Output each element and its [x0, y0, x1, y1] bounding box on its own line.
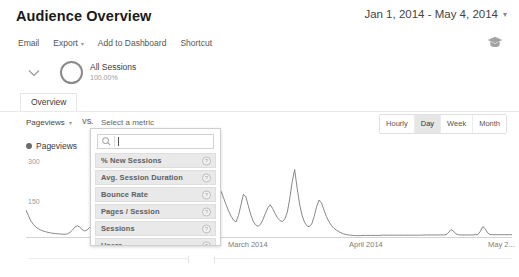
info-icon[interactable]: ?	[202, 207, 211, 216]
granularity-hourly-button[interactable]: Hourly	[380, 115, 415, 133]
report-toolbar: Email Export ▾ Add to Dashboard Shortcut	[18, 38, 212, 48]
graduation-cap-icon	[487, 36, 503, 48]
info-icon[interactable]: ?	[202, 173, 211, 182]
segment-bar: All Sessions 100.00%	[0, 56, 519, 90]
granularity-day-button[interactable]: Day	[415, 115, 441, 133]
info-icon[interactable]: ?	[202, 241, 211, 246]
legend-dot-icon	[26, 143, 32, 149]
metric-option-list: % New Sessions ? Avg. Session Duration ?…	[91, 153, 220, 246]
chevron-down-icon: ▾	[69, 119, 72, 126]
metric-dropdown-panel[interactable]: % New Sessions ? Avg. Session Duration ?…	[90, 128, 221, 246]
metric-option-label: Pages / Session	[101, 207, 160, 216]
metric-option-label: Users	[101, 241, 122, 246]
metric-option-bounce-rate[interactable]: Bounce Rate ?	[95, 187, 216, 202]
segment-info[interactable]: All Sessions 100.00%	[90, 62, 136, 82]
x-axis-tick-april: April 2014	[349, 240, 383, 249]
segment-percent: 100.00%	[90, 74, 136, 83]
donut-ring-icon	[60, 61, 83, 84]
x-axis-tick-march: March 2014	[228, 240, 268, 249]
separator-tick-left	[188, 256, 189, 263]
separator-tick-right	[214, 256, 215, 263]
metric-option-label: Avg. Session Duration	[101, 173, 183, 182]
date-range-label: Jan 1, 2014 - May 4, 2014	[364, 8, 498, 20]
x-axis: March 2014 April 2014 May 2...	[0, 240, 519, 254]
primary-metric-selector[interactable]: Pageviews ▾	[26, 118, 72, 127]
page-title: Audience Overview	[16, 8, 151, 24]
pageviews-chart: Pageviews 300 150 March 2014 April 2014 …	[0, 138, 519, 254]
granularity-hourly-label: Hourly	[386, 119, 408, 128]
analytics-audience-overview-page: Audience Overview Jan 1, 2014 - May 4, 2…	[0, 0, 519, 277]
info-icon[interactable]: ?	[202, 224, 211, 233]
metric-option-pages-per-session[interactable]: Pages / Session ?	[95, 204, 216, 219]
tab-overview-label: Overview	[31, 97, 66, 107]
x-axis-tick-may: May 2...	[488, 240, 515, 249]
add-to-dashboard-label: Add to Dashboard	[98, 38, 167, 48]
chevron-down-icon[interactable]	[28, 69, 40, 77]
metric-option-label: Bounce Rate	[101, 190, 148, 199]
tab-overview[interactable]: Overview	[20, 93, 77, 111]
separator-line-left	[28, 258, 188, 259]
metric-option-avg-session-duration[interactable]: Avg. Session Duration ?	[95, 170, 216, 185]
date-range-selector[interactable]: Jan 1, 2014 - May 4, 2014 ▾	[364, 8, 507, 20]
shortcut-button[interactable]: Shortcut	[180, 38, 212, 48]
export-button[interactable]: Export ▾	[53, 38, 84, 48]
search-icon	[101, 136, 112, 147]
report-tab-row: Overview	[0, 91, 519, 112]
metric-option-sessions[interactable]: Sessions ?	[95, 221, 216, 236]
email-label: Email	[18, 38, 39, 48]
metric-option-new-sessions[interactable]: % New Sessions ?	[95, 153, 216, 168]
metric-search-box[interactable]	[97, 134, 214, 149]
metric-search-input[interactable]	[115, 135, 213, 148]
email-button[interactable]: Email	[18, 38, 39, 48]
metric-option-label: % New Sessions	[101, 156, 162, 165]
granularity-day-label: Day	[421, 119, 434, 128]
granularity-week-button[interactable]: Week	[441, 115, 473, 133]
page-header: Audience Overview Jan 1, 2014 - May 4, 2…	[0, 0, 519, 30]
vs-label: VS.	[82, 118, 93, 125]
granularity-month-button[interactable]: Month	[473, 115, 506, 133]
text-cursor	[118, 137, 119, 146]
separator-line-right	[214, 258, 512, 259]
chevron-down-icon: ▾	[81, 40, 84, 47]
info-icon[interactable]: ?	[202, 190, 211, 199]
granularity-week-label: Week	[447, 119, 466, 128]
metric-option-users[interactable]: Users ?	[95, 238, 216, 246]
metric-selector-row: Pageviews ▾ VS. Select a metric Hourly D…	[0, 114, 519, 136]
info-icon[interactable]: ?	[202, 156, 211, 165]
shortcut-label: Shortcut	[180, 38, 212, 48]
granularity-button-group: Hourly Day Week Month	[379, 114, 507, 134]
secondary-metric-selector[interactable]: Select a metric	[101, 118, 154, 127]
export-label: Export	[53, 38, 78, 48]
segment-name: All Sessions	[90, 62, 136, 73]
bottom-separator-group	[0, 256, 519, 277]
metric-option-label: Sessions	[101, 224, 135, 233]
add-to-dashboard-button[interactable]: Add to Dashboard	[98, 38, 167, 48]
primary-metric-label: Pageviews	[26, 118, 65, 127]
granularity-month-label: Month	[479, 119, 500, 128]
chevron-down-icon: ▾	[503, 11, 507, 19]
